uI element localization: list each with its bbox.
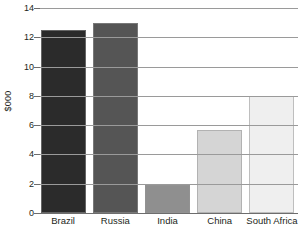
gridline-4 — [37, 154, 298, 155]
y-tick-mark-4 — [34, 154, 40, 155]
axis-baseline — [37, 213, 298, 214]
y-tick-mark-12 — [34, 37, 40, 38]
y-tick-mark-2 — [34, 184, 40, 185]
bar-slot — [37, 8, 89, 213]
x-axis-labels: BrazilRussiaIndiaChinaSouth Africa — [37, 215, 298, 237]
bar-slot — [194, 8, 246, 213]
y-tick-label-4: 4 — [8, 149, 34, 159]
bar-brazil[interactable] — [41, 30, 86, 213]
x-label-china: China — [194, 215, 246, 226]
x-label-india: India — [141, 215, 193, 226]
y-tick-label-0: 0 — [8, 208, 34, 218]
gridline-8 — [37, 96, 298, 97]
y-tick-label-8: 8 — [8, 91, 34, 101]
x-label-south-africa: South Africa — [246, 215, 298, 226]
y-tick-mark-14 — [34, 8, 40, 9]
y-axis-title: $000 — [3, 79, 13, 123]
gridline-2 — [37, 184, 298, 185]
bar-slot — [246, 8, 298, 213]
y-tick-mark-6 — [34, 125, 40, 126]
y-tick-mark-0 — [34, 213, 40, 214]
y-tick-mark-8 — [34, 96, 40, 97]
y-tick-label-10: 10 — [8, 62, 34, 72]
gridline-12 — [37, 37, 298, 38]
bar-chart: $000 02468101214 BrazilRussiaIndiaChinaS… — [0, 0, 305, 241]
bar-series — [37, 8, 298, 213]
plot-area — [37, 8, 298, 213]
gridline-14 — [37, 8, 298, 9]
bar-slot — [89, 8, 141, 213]
y-tick-mark-10 — [34, 67, 40, 68]
y-tick-label-12: 12 — [8, 32, 34, 42]
x-label-brazil: Brazil — [37, 215, 89, 226]
gridline-10 — [37, 67, 298, 68]
bar-china[interactable] — [197, 130, 242, 213]
gridline-6 — [37, 125, 298, 126]
y-tick-label-14: 14 — [8, 3, 34, 13]
bar-slot — [141, 8, 193, 213]
y-tick-label-6: 6 — [8, 120, 34, 130]
y-tick-label-2: 2 — [8, 179, 34, 189]
bar-india[interactable] — [145, 185, 190, 213]
x-label-russia: Russia — [89, 215, 141, 226]
